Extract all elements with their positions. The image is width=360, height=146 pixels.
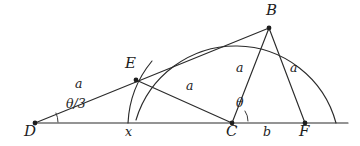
point-label-d: D (24, 124, 36, 139)
point-label-f: F (299, 124, 309, 139)
segment-label-a-ec: a (186, 80, 193, 93)
segment-label-x: x (125, 126, 132, 139)
angle-label-theta-over-three: θ/3 (66, 98, 86, 111)
segment-ec (136, 80, 232, 123)
angle-arc-at-c (245, 111, 248, 121)
segment-bf (269, 28, 305, 123)
segment-label-a-de: a (75, 78, 82, 91)
segment-label-b: b (263, 126, 271, 139)
point-label-e: E (125, 56, 136, 71)
vertex-dot-e (134, 78, 139, 83)
segment-label-a-bf: a (290, 62, 297, 75)
geometry-figure: D E B C F a a a a x b θ/3 θ (0, 0, 360, 146)
vertex-dot-b (267, 26, 272, 31)
angle-label-theta: θ (236, 97, 244, 110)
point-label-c: C (226, 124, 237, 139)
segment-label-a-cb: a (236, 62, 243, 75)
point-label-b: B (266, 3, 277, 18)
